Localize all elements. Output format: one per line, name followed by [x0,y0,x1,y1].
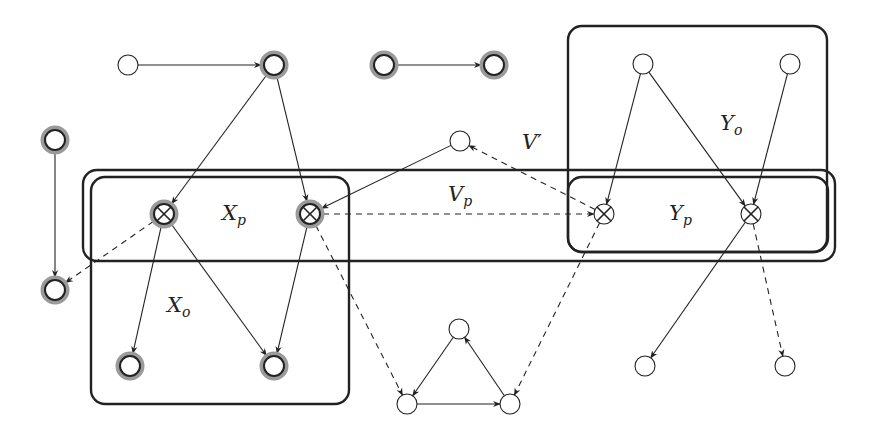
edge-xp1-xo1 [133,227,161,354]
label-yp: Yp [669,203,692,227]
edge-xp1-n6 [66,221,154,282]
edge-n2-xp1 [172,75,267,203]
node-xo1 [119,355,142,378]
nodes [44,54,801,415]
node-xo2 [263,355,286,378]
edge-t3-t1 [465,337,505,395]
node-n1 [118,55,138,75]
edge-n2-xp2 [277,78,307,202]
node-yp1-cross-icon [594,204,614,224]
node-n3 [373,54,396,77]
edge-v1-xp2 [322,145,451,208]
edge-yo1-yp2 [649,72,745,206]
edge-yp2-b2 [753,224,783,356]
label-xo: Xo [167,295,190,319]
label-xp: Xp [222,203,246,227]
node-n6 [44,279,67,302]
edge-yo1-yp1 [607,74,641,205]
node-yo1 [633,54,653,74]
node-n2 [263,54,286,77]
node-v1 [450,131,470,151]
node-t1 [449,319,469,339]
label-yo: Yo [720,113,742,137]
edge-yp2-b1 [651,222,746,358]
node-b2 [775,356,795,376]
node-xp2-cross-icon [299,203,322,226]
label-v-prime: V′ [522,132,542,153]
node-n5 [44,129,67,152]
node-yp2-cross-icon [741,204,761,224]
label-vp: Vp [448,184,472,208]
edge-yp1-t3 [514,223,599,395]
edge-yo2-yp2 [754,74,788,205]
node-yo2 [780,54,800,74]
edge-xp2-t2 [316,226,403,396]
edges [55,65,787,404]
edge-t1-t2 [413,337,454,396]
edge-xp1-xo2 [172,225,267,356]
node-xp1-cross-icon [153,203,176,226]
region-boxes [83,26,835,404]
edge-xp2-xo2 [277,227,307,354]
node-t3 [500,394,520,414]
graph-diagram [0,0,870,438]
node-b1 [635,356,655,376]
node-t2 [397,394,417,414]
node-n4 [483,54,506,77]
